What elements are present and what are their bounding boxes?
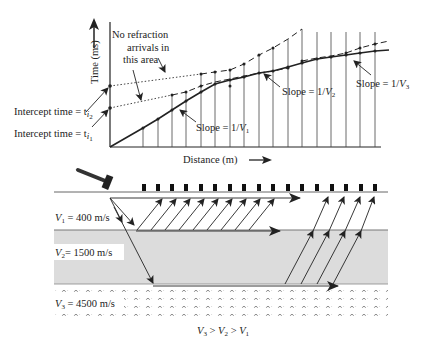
slope-v1-arrow: [180, 110, 196, 122]
ray-to-layer1-a: [110, 198, 134, 225]
intercept-time-1-label: Intercept time = ti1: [14, 128, 93, 143]
x-axis-label: Distance (m): [183, 154, 238, 166]
intercept-time-2-label: Intercept time = ti2: [14, 106, 93, 121]
hammer-icon: [78, 170, 113, 190]
v3-extrapolation-dotted: [110, 74, 201, 86]
velocity-relation-caption: V3 > V2 > V1: [197, 325, 250, 338]
no-refraction-arrow-1: [158, 58, 165, 72]
subsurface-cross-section: V1 = 400 m/s V2= 1500 m/s V3 = 4500 m/s …: [54, 170, 388, 338]
slope-v3-label: Slope = 1/V3: [356, 78, 410, 91]
no-refraction-arrow-2: [133, 70, 141, 100]
slope-v2-label: Slope = 1/V2: [282, 86, 336, 99]
x-axis-arrow-icon: [249, 156, 272, 164]
slope-v1-label: Slope = 1/V1: [196, 122, 250, 135]
slope-v2-arrow: [264, 74, 280, 87]
trace-lines: [143, 29, 375, 147]
intercept-1-arrow: [92, 110, 108, 127]
refracted-rays-layer2: [137, 199, 274, 230]
seismic-refraction-diagram: ^ . Time (ms) Distance (m): [0, 0, 422, 351]
y-axis-label: Time (ms): [89, 40, 101, 84]
layer-1-velocity-label: V1 = 400 m/s: [55, 212, 110, 225]
v2-extrapolation-dotted: [110, 95, 172, 108]
geophones: [142, 184, 377, 191]
slope-v3-arrow: [354, 61, 371, 75]
travel-time-chart: Time (ms) Distance (m): [14, 18, 410, 166]
intercept-2-arrow: [86, 88, 108, 112]
no-refraction-label: No refraction arrivals in this area: [112, 29, 172, 65]
